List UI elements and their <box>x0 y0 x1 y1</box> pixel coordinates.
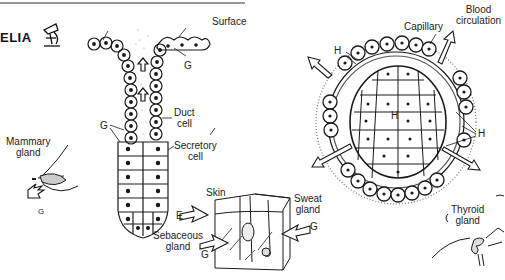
mammary-arrow-icon <box>28 184 44 198</box>
skin-label: Skin <box>206 187 225 198</box>
duct-right-wall <box>150 44 166 140</box>
vessel-left-arrow-icon <box>308 57 332 78</box>
e-label: E <box>176 210 183 221</box>
h-label-right: H <box>478 128 485 139</box>
secretory-acinus <box>118 142 168 238</box>
secretion-arrow-icon <box>138 58 148 101</box>
sweat-arrow-icon <box>282 225 310 241</box>
sweat-gland-label: Sweat gland <box>294 193 322 215</box>
duct-lumen-stipple <box>135 29 148 134</box>
secretory-cell-label: Secretory cell <box>174 140 217 162</box>
skin-block-sketch <box>215 194 290 270</box>
leader-lines <box>103 28 215 150</box>
surface-epithelium <box>88 37 210 52</box>
h-label-center: H <box>391 110 398 121</box>
g-label-mammary: G <box>38 207 44 216</box>
g-label-sebaceous: G <box>201 249 209 260</box>
glandular-epithelia-figure: ELIA Surface G G Duct cell Secretory cel… <box>0 0 505 280</box>
duct-cell-label: Duct cell <box>174 107 195 129</box>
e-arrow-icon <box>180 206 208 222</box>
g-label-duct: G <box>100 120 108 131</box>
g-label-surface: G <box>184 60 192 71</box>
g-label-sweat: G <box>310 221 318 232</box>
inner-follicle-cells <box>350 66 446 178</box>
duct-left-wall <box>118 49 137 144</box>
h-label-top-left: H <box>334 45 341 56</box>
blood-circulation-label: Blood circulation <box>456 4 501 26</box>
thyroid-gland-label: Thyroid gland <box>451 204 484 226</box>
sebaceous-gland-label: Sebaceous gland <box>153 230 203 252</box>
vessel-lower-right-arrow-icon <box>442 147 480 170</box>
figure-title-fragment: ELIA <box>0 30 32 45</box>
mammary-gland-label: Mammary gland <box>6 136 50 158</box>
blood-out-arrow-icon <box>438 31 455 64</box>
microscope-icon <box>44 24 60 46</box>
surface-label: Surface <box>212 16 246 27</box>
capillary-label: Capillary <box>404 21 443 32</box>
diagram-drawing <box>0 0 505 280</box>
